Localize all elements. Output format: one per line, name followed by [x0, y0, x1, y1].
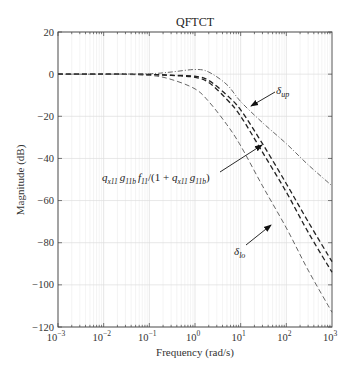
x-tick-label: 103	[323, 329, 338, 343]
y-tick-label: −80	[38, 237, 54, 248]
annotation-delta-up: δup	[251, 84, 289, 106]
y-tick-label: 0	[49, 69, 54, 80]
x-axis-title: Frequency (rad/s)	[156, 346, 234, 359]
tf-g-sub: 11b	[125, 177, 136, 186]
y-tick-labels: 200−20−40−60−80−100−120	[32, 27, 54, 333]
y-tick-label: 20	[44, 27, 55, 38]
delta-lo-subscript: lo	[239, 251, 245, 260]
y-tick-label: −20	[38, 111, 54, 122]
tf-mid: /(1 +	[148, 171, 172, 184]
svg-text:δup: δup	[276, 84, 289, 99]
tf-g2-sub: 11b	[195, 177, 206, 186]
x-tick-labels: 10−310−210−1100101102103	[47, 329, 338, 343]
svg-text:qx11g11bf11/(1 + qx11g11b): qx11g11bf11/(1 + qx11g11b)	[102, 171, 210, 186]
y-axis-title: Magnitude (dB)	[14, 144, 27, 215]
x-tick-label: 101	[232, 329, 247, 343]
tf-q2-sub: x11	[176, 177, 187, 186]
svg-text:δlo: δlo	[234, 245, 245, 260]
tf-q-sub: x11	[107, 177, 118, 186]
tf-end: )	[206, 171, 210, 184]
tf-f-sub: 11	[141, 177, 148, 186]
x-tick-label: 10−2	[92, 329, 111, 343]
delta-lo-arrow	[246, 225, 271, 245]
bode-magnitude-chart: QFTCT Frequency (rad/s) Magnitude (dB) 1…	[0, 0, 354, 376]
y-tick-label: −40	[38, 153, 54, 164]
x-tick-label: 100	[186, 329, 201, 343]
y-tick-label: −60	[38, 195, 54, 206]
chart-title: QFTCT	[176, 15, 215, 29]
y-tick-label: −100	[32, 279, 54, 290]
x-tick-label: 102	[277, 329, 292, 343]
x-tick-label: 10−1	[138, 329, 157, 343]
annotation-closed-loop-tf: qx11g11bf11/(1 + qx11g11b)	[102, 145, 262, 186]
delta-up-subscript: up	[281, 90, 289, 99]
y-tick-label: −120	[32, 322, 54, 333]
